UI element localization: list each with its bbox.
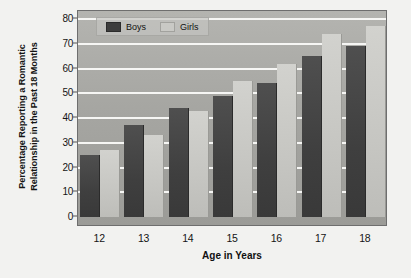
legend: BoysGirls: [96, 17, 209, 36]
bar-boys-16: [257, 83, 277, 217]
y-axis-tick-labels: 01020304050607080: [56, 18, 76, 226]
x-axis-tick-label: 14: [182, 232, 193, 244]
bar-girls-13: [144, 135, 164, 217]
y-axis-tick-label: 30: [62, 136, 73, 147]
plot-area: BoysGirls: [77, 10, 387, 226]
bar-girls-17: [322, 34, 342, 217]
bar-girls-16: [277, 64, 297, 217]
y-axis-tick-label: 20: [62, 161, 73, 172]
legend-item-girls: Girls: [160, 22, 199, 32]
bar-boys-15: [213, 96, 233, 217]
legend-swatch-boys: [106, 22, 121, 32]
y-axis-title: Percentage Reporting a Romantic Relation…: [0, 0, 56, 232]
bar-girls-18: [366, 26, 386, 217]
bar-girls-15: [233, 81, 253, 217]
bar-group: [213, 11, 253, 225]
bar-boys-18: [346, 46, 366, 217]
bar-group: [124, 11, 164, 225]
x-axis-tick-label: 17: [315, 232, 326, 244]
bar-group: [257, 11, 297, 225]
y-axis-title-line-1: Percentage Reporting a Romantic: [17, 42, 29, 191]
bar-boys-13: [124, 125, 144, 217]
legend-swatch-girls: [160, 22, 175, 32]
bars-layer: [78, 11, 386, 225]
x-axis-title: Age in Years: [77, 250, 387, 261]
bar-boys-14: [169, 108, 189, 217]
bar-group: [169, 11, 209, 225]
plot-inner: [78, 11, 386, 225]
x-axis-tick-label: 15: [226, 232, 237, 244]
y-axis-tick-label: 50: [62, 87, 73, 98]
bar-group: [346, 11, 386, 225]
y-axis-tick-label: 10: [62, 186, 73, 197]
bar-girls-12: [100, 150, 120, 217]
y-axis-tick-label: 60: [62, 62, 73, 73]
x-axis-tick-labels: 12131415161718: [77, 232, 387, 248]
x-axis-tick-label: 18: [359, 232, 370, 244]
y-axis-tick-label: 70: [62, 37, 73, 48]
y-axis-title-line-2: Relationship in the Past 18 Months: [28, 42, 40, 191]
legend-label: Boys: [126, 22, 146, 32]
x-axis-tick-label: 13: [138, 232, 149, 244]
bar-group: [80, 11, 120, 225]
legend-item-boys: Boys: [106, 22, 146, 32]
y-axis-tick-label: 40: [62, 112, 73, 123]
y-axis-tick-label: 80: [62, 13, 73, 24]
x-axis-tick-label: 12: [94, 232, 105, 244]
bar-boys-17: [302, 56, 322, 217]
x-axis-tick-label: 16: [271, 232, 282, 244]
bar-group: [302, 11, 342, 225]
bar-boys-12: [80, 155, 100, 217]
legend-label: Girls: [180, 22, 199, 32]
bar-girls-14: [189, 111, 209, 217]
chart-figure: Percentage Reporting a Romantic Relation…: [0, 0, 411, 278]
